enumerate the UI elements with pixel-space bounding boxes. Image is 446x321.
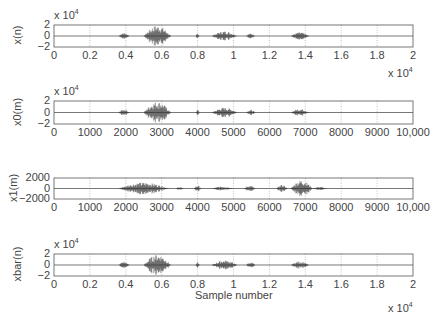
x-tick-label: 2: [410, 49, 416, 61]
x-tick-label: 0.4: [118, 278, 133, 290]
x-tick-label: 0.8: [190, 49, 205, 61]
x-tick-label: 10,000: [396, 126, 430, 138]
x-tick-label: 0.4: [118, 49, 133, 61]
x-tick-label: 0: [51, 126, 57, 138]
x-tick-label: 1000: [78, 126, 102, 138]
signal-trace: [119, 181, 327, 196]
x-tick-label: 3000: [149, 201, 173, 213]
x-tick-label: 1.8: [369, 278, 384, 290]
x-tick-label: 0.6: [154, 49, 169, 61]
x-tick-label: 6000: [257, 201, 281, 213]
x-tick-label: 10,000: [396, 201, 430, 213]
x-tick-label: 0: [51, 278, 57, 290]
x-tick-label: 9000: [365, 126, 389, 138]
x-tick-label: 2: [410, 278, 416, 290]
x-tick-label: 1.2: [262, 49, 277, 61]
y-axis-label: x(n): [11, 10, 23, 60]
x-tick-label: 1.8: [369, 49, 384, 61]
x-tick-label: 8000: [329, 201, 353, 213]
x-tick-label: 0: [51, 201, 57, 213]
x-tick-label: 1.2: [262, 278, 277, 290]
x-tick-label: 1.4: [298, 49, 313, 61]
x-tick-label: 0.2: [82, 49, 97, 61]
x-tick-label: 9000: [365, 201, 389, 213]
x-tick-label: 0.8: [190, 278, 205, 290]
x-tick-label: 8000: [329, 126, 353, 138]
x-tick-label: 1.6: [334, 49, 349, 61]
x-tick-label: 3000: [149, 126, 173, 138]
x-tick-label: 5000: [221, 201, 245, 213]
y-axis-label: x0(m): [11, 87, 23, 137]
x-tick-label: 7000: [293, 201, 317, 213]
y-axis-label: x1(m): [7, 163, 19, 213]
x-tick-label: 6000: [257, 126, 281, 138]
x-tick-label: 1.6: [334, 278, 349, 290]
x-tick-label: 1: [230, 278, 236, 290]
x-tick-label: 1: [230, 49, 236, 61]
y-axis-label: xbar(n): [11, 239, 23, 289]
x-tick-label: 4000: [185, 201, 209, 213]
x-tick-label: 5000: [221, 126, 245, 138]
x-tick-label: 2000: [114, 126, 138, 138]
x-tick-label: 0.2: [82, 278, 97, 290]
x-tick-label: 0: [51, 49, 57, 61]
x-tick-label: 2000: [114, 201, 138, 213]
x-tick-label: 0.6: [154, 278, 169, 290]
x-tick-label: 7000: [293, 126, 317, 138]
x-tick-label: 4000: [185, 126, 209, 138]
x-tick-label: 1.4: [298, 278, 313, 290]
x-tick-label: 1000: [78, 201, 102, 213]
